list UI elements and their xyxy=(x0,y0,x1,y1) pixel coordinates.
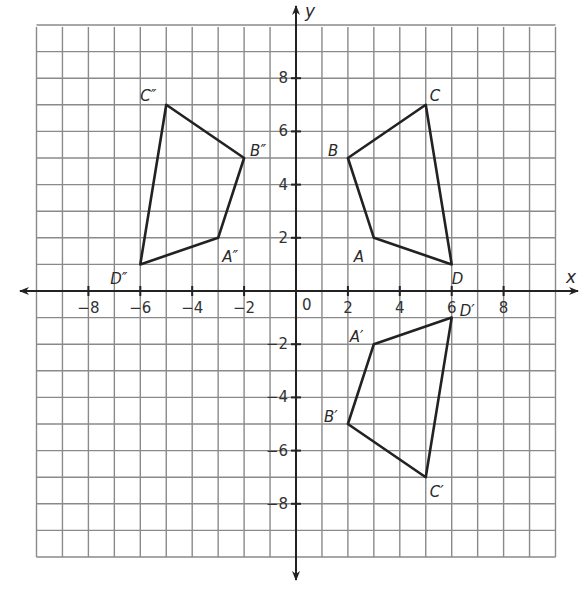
y-tick-label: 2 xyxy=(278,229,288,247)
x-axis-label: x xyxy=(565,267,577,287)
axes xyxy=(20,6,578,580)
y-tick-label: −2 xyxy=(266,335,288,353)
vertex-label: A′ xyxy=(349,328,364,346)
origin-label: 0 xyxy=(302,296,312,314)
coordinate-plane: −8−6−4−22468−8−6−4−22468 ABCDA′B′C′D′A″B… xyxy=(0,0,588,589)
y-tick-label: −8 xyxy=(266,495,288,513)
x-tick-label: −8 xyxy=(77,299,99,317)
x-tick-label: 6 xyxy=(447,299,457,317)
vertex-label: B′ xyxy=(324,408,338,426)
vertex-label: C xyxy=(430,87,441,105)
vertex-label: C″ xyxy=(140,87,156,105)
y-tick-label: 6 xyxy=(278,122,288,140)
x-tick-label: 8 xyxy=(499,299,509,317)
vertex-label: B″ xyxy=(250,142,266,160)
vertex-label: A″ xyxy=(221,248,238,266)
y-tick-label: 4 xyxy=(278,176,288,194)
vertex-label: D″ xyxy=(110,270,128,288)
x-tick-label: 4 xyxy=(395,299,405,317)
x-tick-label: −6 xyxy=(129,299,151,317)
y-tick-label: −6 xyxy=(266,442,288,460)
vertex-labels: ABCDA′B′C′D′A″B″C″D″ xyxy=(110,87,475,501)
vertex-label: B xyxy=(328,142,338,160)
x-tick-label: −2 xyxy=(233,299,255,317)
vertex-label: C′ xyxy=(430,483,444,501)
y-tick-label: −4 xyxy=(266,388,288,406)
y-tick-label: 8 xyxy=(278,69,288,87)
x-tick-label: −4 xyxy=(181,299,203,317)
vertex-label: D′ xyxy=(460,302,476,320)
y-axis-label: y xyxy=(304,1,316,21)
vertex-label: A xyxy=(353,248,364,266)
vertex-label: D xyxy=(452,270,464,288)
x-tick-label: 2 xyxy=(343,299,353,317)
